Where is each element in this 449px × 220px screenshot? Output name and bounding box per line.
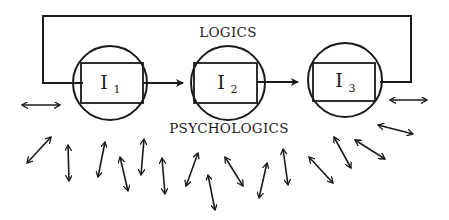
node-i3: [308, 43, 382, 117]
double-arrow-icon: [186, 153, 198, 186]
node-i1: [73, 46, 147, 120]
double-arrow-icon: [208, 175, 215, 210]
logics-label: LOGICS: [199, 24, 257, 40]
double-arrow-icon: [162, 158, 165, 194]
double-arrow-icon: [259, 163, 267, 198]
node-i3-letter: I: [335, 69, 343, 91]
node-circle: [191, 46, 265, 120]
node-i2-letter: I: [217, 71, 225, 93]
node-circle: [308, 43, 382, 117]
node-circle: [73, 46, 147, 120]
double-arrow-icon: [68, 145, 69, 181]
logics-psychologics-diagram: LOGICS I 1 I 2 I 3 PSYCHOLOGICS: [0, 0, 449, 220]
node-i3-subscript: 3: [349, 82, 356, 95]
node-i2: [191, 46, 265, 120]
double-arrow-icon: [141, 139, 144, 175]
node-box: [313, 63, 375, 101]
double-arrow-icon: [355, 140, 385, 159]
double-arrow-icon: [334, 137, 351, 168]
double-arrow-icon: [309, 157, 333, 183]
double-arrow-icon: [378, 125, 413, 134]
node-box: [81, 63, 143, 103]
node-box: [194, 63, 257, 103]
node-i1-letter: I: [100, 71, 108, 93]
double-arrow-icon: [283, 149, 288, 185]
psychologics-double-arrows: [22, 100, 427, 210]
node-i2-subscript: 2: [231, 83, 238, 96]
double-arrow-icon: [27, 137, 51, 163]
double-arrow-icon: [120, 157, 128, 191]
double-arrow-icon: [225, 157, 243, 186]
double-arrow-icon: [98, 142, 105, 177]
psychologics-label: PSYCHOLOGICS: [169, 120, 289, 136]
node-i1-subscript: 1: [114, 83, 121, 96]
